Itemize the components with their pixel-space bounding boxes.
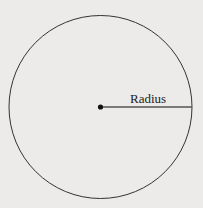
center-point	[98, 104, 103, 109]
radius-label: Radius	[130, 91, 166, 106]
circle-diagram-svg: Radius	[0, 0, 203, 208]
circle-diagram: Radius	[0, 0, 203, 208]
